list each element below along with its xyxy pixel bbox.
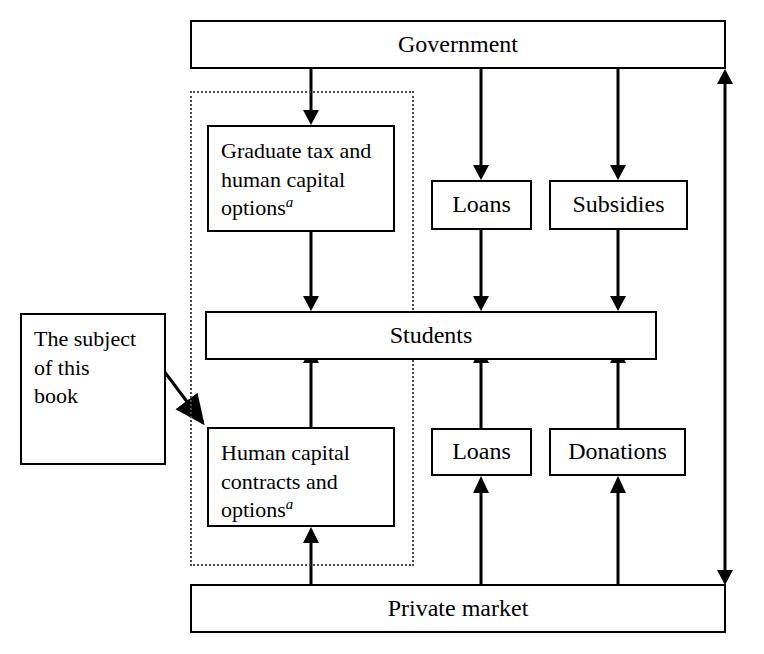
node-graduate-tax-line1: Graduate tax and [209,127,371,166]
node-loans-bottom[interactable]: Loans [431,428,532,476]
node-graduate-tax[interactable]: Graduate tax and human capital optionsa [207,125,395,232]
node-annotation-subject-of-book[interactable]: The subject of this book [20,313,166,465]
node-graduate-tax-footnote-marker: a [286,194,293,210]
edge-private-market-government-bidirectional [717,69,733,585]
node-private-market[interactable]: Private market [190,584,726,633]
node-loans-bottom-label: Loans [452,436,511,467]
node-human-capital-footnote-marker: a [286,496,293,512]
node-loans-top[interactable]: Loans [431,180,532,230]
node-private-market-label: Private market [388,593,529,624]
node-donations[interactable]: Donations [549,428,686,476]
node-human-capital-line1: Human capital [209,429,350,468]
edge-loans-top-to-students [473,230,489,311]
node-government-label: Government [398,29,518,60]
node-loans-top-label: Loans [452,189,511,220]
node-human-capital[interactable]: Human capital contracts and optionsa [207,427,395,527]
funding-flow-diagram: Government Graduate tax and human capita… [0,0,764,654]
edge-government-to-loans-top [473,69,489,180]
node-graduate-tax-line3: optionsa [209,194,293,223]
node-human-capital-line3: optionsa [209,496,293,525]
edge-private-market-to-donations [610,476,626,584]
edge-donations-to-students [610,348,626,428]
node-graduate-tax-line2: human capital [209,166,345,195]
node-human-capital-line3-text: options [221,497,286,522]
node-subsidies[interactable]: Subsidies [549,180,688,230]
edge-private-market-to-loans-bottom [473,476,489,584]
node-students[interactable]: Students [205,311,657,360]
node-donations-label: Donations [568,436,667,467]
node-annotation-line1: The subject [22,315,136,354]
edge-subsidies-to-students [610,230,626,311]
node-students-label: Students [390,320,473,351]
node-subsidies-label: Subsidies [572,189,664,220]
edge-government-to-subsidies [610,69,626,180]
node-annotation-line3: book [22,382,78,411]
node-government[interactable]: Government [190,20,726,69]
node-human-capital-line2: contracts and [209,468,338,497]
node-graduate-tax-line3-text: options [221,195,286,220]
edge-loans-bottom-to-students [473,348,489,428]
node-annotation-line2: of this [22,354,90,383]
